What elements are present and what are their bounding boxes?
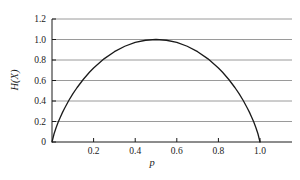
x-tick-label: 0.4: [129, 146, 141, 156]
y-tick-label: 1.0: [34, 35, 46, 45]
x-tick-label: 0.2: [88, 146, 100, 156]
y-tick-label: 0.8: [34, 55, 46, 65]
x-tick-label: 0.6: [171, 146, 183, 156]
entropy-chart: 00.20.40.60.81.01.2 0.20.40.60.81.0 p H(…: [0, 0, 300, 180]
y-tick-label: 0.4: [34, 96, 46, 106]
x-axis-title: p: [148, 157, 154, 168]
y-tick-label: 0.2: [34, 117, 46, 127]
y-tick-label: 1.2: [34, 14, 46, 24]
x-tick-label: 1.0: [254, 146, 266, 156]
y-tick-label: 0.6: [34, 76, 46, 86]
y-tick-label: 0: [41, 137, 46, 147]
y-axis-title: H(X): [9, 69, 21, 91]
x-tick-label: 0.8: [212, 146, 224, 156]
chart-svg: 00.20.40.60.81.01.2 0.20.40.60.81.0 p H(…: [0, 0, 300, 180]
